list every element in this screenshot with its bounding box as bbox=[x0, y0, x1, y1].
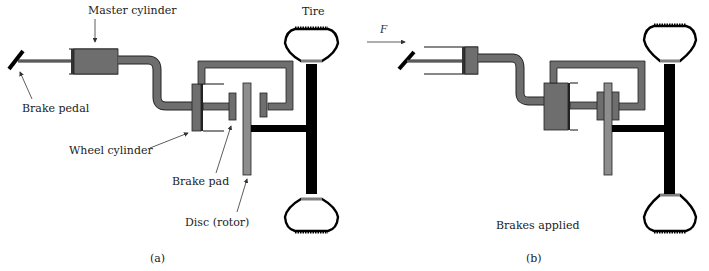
panel-a: Master cylinder Tire Brake pedal Wheel c… bbox=[9, 4, 338, 265]
tire-bottom-b bbox=[644, 195, 696, 233]
label-force: F bbox=[379, 22, 388, 36]
wheel-cylinder-b bbox=[544, 83, 602, 130]
tire-top-b bbox=[644, 25, 696, 62]
brake-pad-right-a bbox=[260, 93, 267, 117]
brake-diagram: Master cylinder Tire Brake pedal Wheel c… bbox=[0, 0, 709, 271]
caption-a: (a) bbox=[150, 252, 165, 265]
master-cylinder-a bbox=[69, 49, 118, 74]
wheel-cylinder-a bbox=[192, 84, 236, 131]
disc-rotor-a bbox=[243, 83, 251, 175]
label-brakes-applied: Brakes applied bbox=[496, 219, 579, 232]
brake-pad-left-a bbox=[229, 93, 236, 120]
caption-b: (b) bbox=[526, 252, 542, 265]
label-tire: Tire bbox=[302, 5, 325, 18]
label-brake-pad: Brake pad bbox=[172, 175, 229, 188]
hub-arm-a bbox=[251, 125, 309, 132]
axle-a bbox=[306, 64, 317, 194]
label-master-cylinder: Master cylinder bbox=[88, 4, 177, 17]
tire-bottom-a bbox=[285, 199, 338, 233]
label-brake-pedal: Brake pedal bbox=[22, 102, 90, 115]
disc-rotor-b bbox=[604, 83, 612, 175]
axle-b bbox=[664, 64, 675, 194]
panel-b: F bbox=[367, 22, 696, 265]
hub-arm-b bbox=[612, 125, 667, 132]
label-disc-rotor: Disc (rotor) bbox=[185, 216, 249, 229]
tire-top-a bbox=[285, 28, 338, 62]
label-wheel-cylinder: Wheel cylinder bbox=[69, 144, 153, 157]
